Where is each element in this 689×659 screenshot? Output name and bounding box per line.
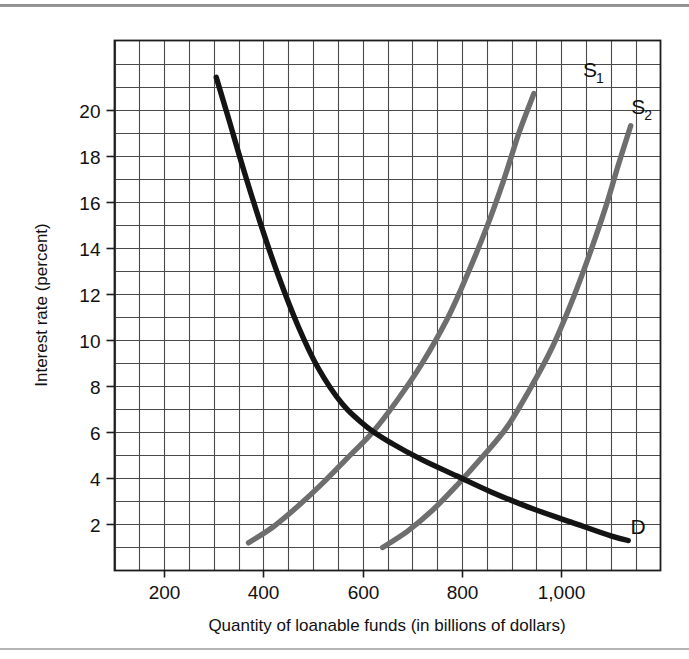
y-tick-label: 20 — [79, 101, 100, 122]
chart-plot-frame — [115, 41, 661, 571]
curve-s1 — [249, 94, 534, 543]
svg-text:D: D — [631, 515, 646, 538]
svg-text:2: 2 — [644, 107, 652, 123]
y-axis-title: Interest rate (percent) — [32, 223, 51, 386]
loanable-funds-chart: 2004006008001,000 2468101214161820 DS1S2… — [0, 0, 689, 659]
x-axis-tick-marks — [165, 571, 562, 578]
x-tick-label: 800 — [447, 582, 479, 603]
y-tick-label: 18 — [79, 147, 100, 168]
y-tick-label: 8 — [90, 377, 101, 398]
svg-text:1: 1 — [596, 70, 604, 86]
y-axis-tick-labels: 2468101214161820 — [79, 101, 101, 536]
x-axis-tick-labels: 2004006008001,000 — [149, 582, 586, 603]
curve-s2 — [383, 126, 631, 548]
y-tick-label: 12 — [79, 285, 100, 306]
figure-root: 2004006008001,000 2468101214161820 DS1S2… — [0, 0, 689, 659]
svg-text:S: S — [631, 95, 645, 118]
chart-gridlines — [115, 41, 661, 571]
x-axis-title: Quantity of loanable funds (in billions … — [208, 616, 565, 635]
curve-label-s2: S2 — [631, 95, 652, 123]
y-axis-tick-marks — [107, 111, 115, 525]
curve-labels: DS1S2 — [583, 58, 652, 537]
curve-label-d: D — [631, 515, 646, 538]
x-tick-label: 200 — [149, 582, 181, 603]
chart-curves — [216, 77, 630, 547]
y-tick-label: 4 — [90, 469, 101, 490]
x-tick-label: 400 — [248, 582, 280, 603]
x-tick-label: 600 — [348, 582, 380, 603]
y-tick-label: 14 — [79, 239, 101, 260]
y-tick-label: 2 — [90, 515, 101, 536]
svg-text:S: S — [583, 58, 597, 81]
x-tick-label: 1,000 — [538, 582, 586, 603]
y-tick-label: 16 — [79, 193, 100, 214]
y-tick-label: 10 — [79, 331, 100, 352]
y-tick-label: 6 — [90, 423, 101, 444]
